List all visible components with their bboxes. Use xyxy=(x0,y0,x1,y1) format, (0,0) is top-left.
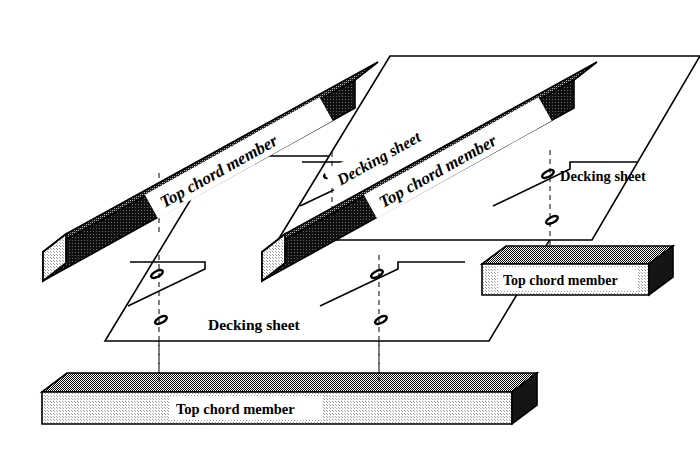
decking-sheet-label-upper-right: Decking sheet xyxy=(560,168,646,184)
beam-mr-top-face xyxy=(482,246,673,264)
top-chord-member-label: Top chord member xyxy=(503,273,618,288)
diagram-canvas: Decking sheet Decking sheet Top chord me… xyxy=(0,0,700,451)
assembly-diagram-svg: Decking sheet Decking sheet Top chord me… xyxy=(0,0,700,451)
beam-b-top-face xyxy=(42,373,537,392)
top-chord-member-mid-right: Top chord member xyxy=(482,246,673,295)
decking-sheet-label-lower: Decking sheet xyxy=(208,316,301,333)
top-chord-member-label: Top chord member xyxy=(176,401,295,417)
top-chord-member-bottom: Top chord member xyxy=(42,373,537,424)
